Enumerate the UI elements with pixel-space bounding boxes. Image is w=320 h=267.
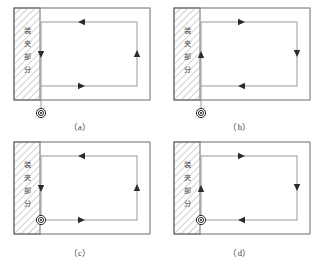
clamp-label-char-1: 夹 bbox=[184, 173, 191, 182]
panel-a-caption: （a） bbox=[0, 120, 160, 132]
clamp-label-char-3: 分 bbox=[184, 65, 191, 74]
clamp-label-char-0: 装 bbox=[184, 26, 191, 35]
clamp-label-char-3: 分 bbox=[184, 199, 191, 208]
panel-b-drawing: 装 夹 部 分 bbox=[160, 0, 320, 120]
clamp-label-char-1: 夹 bbox=[24, 173, 31, 182]
clamp-label-char-0: 装 bbox=[24, 160, 31, 169]
clamp-label-char-1: 夹 bbox=[24, 39, 31, 48]
panel-d-caption: （d） bbox=[160, 246, 320, 258]
panel-c-drawing: 装 夹 部 分 bbox=[0, 134, 160, 244]
panel-c: 装 夹 部 分 （c） bbox=[0, 134, 160, 267]
panel-d-drawing: 装 夹 部 分 bbox=[160, 134, 320, 244]
panel-a-drawing: 装 夹 部 分 bbox=[0, 0, 160, 120]
clamp-label-char-0: 装 bbox=[24, 26, 31, 35]
clamp-label-char-2: 部 bbox=[24, 186, 31, 195]
clamp-label-char-0: 装 bbox=[184, 160, 191, 169]
panel-b-caption: （b） bbox=[160, 120, 320, 132]
entry-point-marker bbox=[36, 215, 45, 224]
clamp-label-char-1: 夹 bbox=[184, 39, 191, 48]
entry-point-marker bbox=[196, 215, 205, 224]
entry-point-marker bbox=[196, 108, 205, 117]
panel-b: 装 夹 部 分 （b） bbox=[160, 0, 320, 133]
clamp-label-char-3: 分 bbox=[24, 65, 31, 74]
clamp-label-char-3: 分 bbox=[24, 199, 31, 208]
panel-c-caption: （c） bbox=[0, 246, 160, 258]
figure-root: 装 夹 部 分 （a） bbox=[0, 0, 320, 267]
panel-d: 装 夹 部 分 （d） bbox=[160, 134, 320, 267]
entry-point-marker bbox=[36, 108, 45, 117]
panel-a: 装 夹 部 分 （a） bbox=[0, 0, 160, 133]
clamp-label-char-2: 部 bbox=[184, 52, 191, 61]
clamp-label-char-2: 部 bbox=[24, 52, 31, 61]
clamp-label-char-2: 部 bbox=[184, 186, 191, 195]
